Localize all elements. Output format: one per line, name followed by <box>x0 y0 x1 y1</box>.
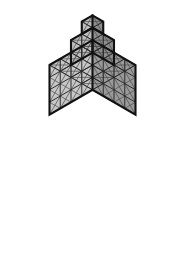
isometric-figure-container <box>0 0 185 256</box>
isometric-cube-pyramid-drawing <box>0 0 185 256</box>
